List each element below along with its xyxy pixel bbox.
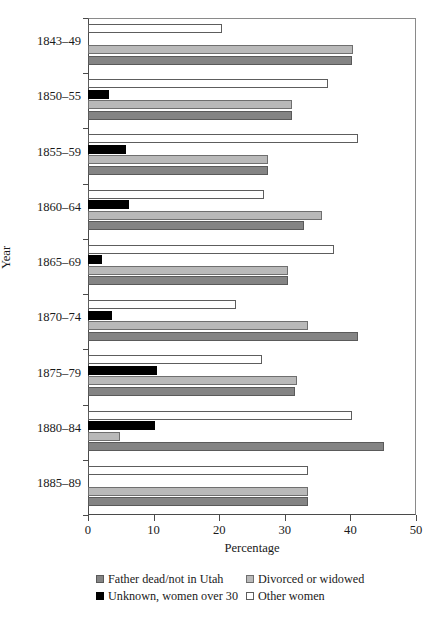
x-axis-tick-label: 10 bbox=[147, 524, 160, 537]
y-axis-tick-label: 1885–89 bbox=[37, 477, 81, 490]
bars-layer bbox=[88, 18, 416, 515]
bar-group bbox=[88, 18, 416, 73]
bar-father bbox=[88, 497, 308, 506]
y-axis-tick bbox=[83, 239, 88, 240]
y-axis-tick-label: 1855–59 bbox=[37, 145, 81, 158]
bar-divorced bbox=[88, 155, 268, 164]
bar-father bbox=[88, 56, 352, 65]
y-axis-tick-label: 1843–49 bbox=[37, 35, 81, 48]
legend-item-divorced: Divorced or widowed bbox=[246, 573, 396, 585]
bar-other bbox=[88, 190, 264, 199]
x-axis-tick-label: 20 bbox=[213, 524, 226, 537]
legend-label: Divorced or widowed bbox=[258, 573, 364, 585]
bar-other bbox=[88, 24, 222, 33]
bar-other bbox=[88, 411, 352, 420]
legend-item-other: Other women bbox=[246, 590, 396, 602]
y-axis-tick bbox=[83, 73, 88, 74]
legend-swatch-divorced-icon bbox=[246, 575, 254, 583]
legend-label: Father dead/not in Utah bbox=[108, 573, 223, 585]
x-axis-tick bbox=[350, 515, 351, 521]
bar-unknown bbox=[88, 421, 155, 430]
chart-legend: Father dead/not in UtahDivorced or widow… bbox=[96, 573, 396, 602]
bar-unknown bbox=[88, 366, 157, 375]
bar-other bbox=[88, 355, 262, 364]
bar-divorced bbox=[88, 487, 308, 496]
bar-father bbox=[88, 221, 304, 230]
bar-other bbox=[88, 466, 308, 475]
x-axis-tick bbox=[416, 515, 417, 521]
x-axis-title: Percentage bbox=[88, 541, 416, 556]
bar-divorced bbox=[88, 45, 353, 54]
y-axis-tick bbox=[83, 18, 88, 19]
x-axis-tick-label: 0 bbox=[85, 524, 91, 537]
y-axis-tick bbox=[83, 405, 88, 406]
y-axis-tick-label: 1850–55 bbox=[37, 90, 81, 103]
bar-group bbox=[88, 405, 416, 460]
y-axis-tick bbox=[83, 184, 88, 185]
bar-divorced bbox=[88, 432, 120, 441]
y-axis-tick-label: 1865–69 bbox=[37, 256, 81, 269]
bar-group bbox=[88, 349, 416, 404]
legend-label: Other women bbox=[258, 590, 325, 602]
y-axis-tick bbox=[83, 294, 88, 295]
legend-label: Unknown, women over 30 bbox=[108, 590, 238, 602]
bar-divorced bbox=[88, 376, 297, 385]
bar-unknown bbox=[88, 255, 102, 264]
bar-divorced bbox=[88, 321, 308, 330]
bar-unknown bbox=[88, 90, 109, 99]
x-axis-tick bbox=[285, 515, 286, 521]
bar-father bbox=[88, 332, 358, 341]
x-axis-tick-label: 30 bbox=[279, 524, 292, 537]
x-axis-tick bbox=[219, 515, 220, 521]
x-axis-tick-label: 40 bbox=[344, 524, 357, 537]
y-axis-tick-label: 1870–74 bbox=[37, 311, 81, 324]
legend-swatch-other-icon bbox=[246, 592, 254, 600]
bar-divorced bbox=[88, 266, 288, 275]
legend-item-father: Father dead/not in Utah bbox=[96, 573, 246, 585]
y-axis-title: Year bbox=[0, 246, 14, 269]
bar-father bbox=[88, 387, 295, 396]
bar-father bbox=[88, 276, 288, 285]
bar-group bbox=[88, 73, 416, 128]
y-axis-tick-label: 1875–79 bbox=[37, 366, 81, 379]
bar-father bbox=[88, 442, 384, 451]
bar-other bbox=[88, 79, 328, 88]
y-axis-tick-label: 1880–84 bbox=[37, 421, 81, 434]
bar-unknown bbox=[88, 311, 112, 320]
legend-swatch-father-icon bbox=[96, 575, 104, 583]
x-axis-tick bbox=[88, 515, 89, 521]
legend-swatch-unknown-icon bbox=[96, 592, 104, 600]
x-axis-tick-label: 50 bbox=[410, 524, 423, 537]
bar-divorced bbox=[88, 100, 292, 109]
legend-item-unknown: Unknown, women over 30 bbox=[96, 590, 246, 602]
bar-group bbox=[88, 294, 416, 349]
y-axis-tick-label: 1860–64 bbox=[37, 201, 81, 214]
bar-other bbox=[88, 134, 358, 143]
bar-other bbox=[88, 245, 334, 254]
y-axis-tick bbox=[83, 349, 88, 350]
bar-father bbox=[88, 111, 292, 120]
bar-group bbox=[88, 184, 416, 239]
bar-group bbox=[88, 460, 416, 515]
bar-chart-figure: 1843–491850–551855–591860–641865–691870–… bbox=[0, 0, 447, 634]
bar-unknown bbox=[88, 145, 126, 154]
bar-other bbox=[88, 300, 236, 309]
bar-father bbox=[88, 166, 268, 175]
bar-divorced bbox=[88, 211, 322, 220]
x-axis-tick bbox=[154, 515, 155, 521]
bar-group bbox=[88, 128, 416, 183]
y-axis-tick bbox=[83, 128, 88, 129]
y-axis-tick bbox=[83, 460, 88, 461]
bar-unknown bbox=[88, 200, 129, 209]
bar-group bbox=[88, 239, 416, 294]
